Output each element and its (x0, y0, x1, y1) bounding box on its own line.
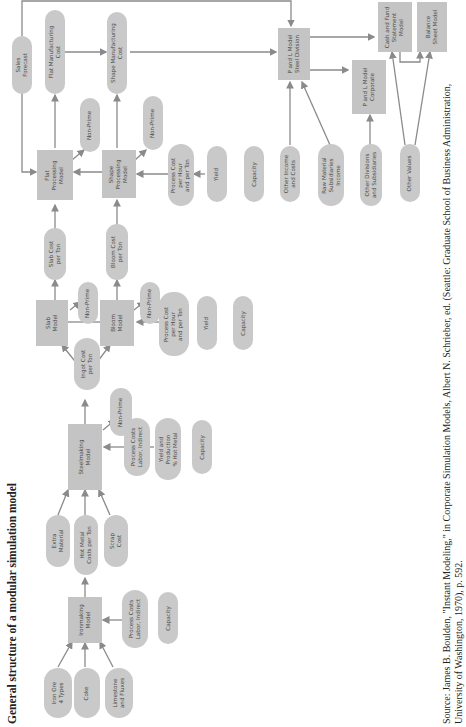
node-flat-mfg-cost: Flat Manufacturing Cost (45, 10, 65, 94)
node-bloom-capacity: Capacity (233, 296, 253, 350)
node-label: Iron Ore 4 Types (51, 682, 65, 705)
node-label: Shape Processing Model (109, 159, 130, 189)
node-other-values: Other Values (400, 144, 420, 202)
figure-title: General structure of a modular simulatio… (6, 483, 18, 724)
node-label: Yield (213, 167, 220, 180)
node-label: Bloom Model (110, 314, 124, 332)
node-label: Process Cost per Hour and per Ton (171, 157, 192, 192)
node-raw-material-subsidiaries: Raw Material Subsidiaries Income (318, 144, 344, 206)
node-sales-forecast: Sales Forecast (12, 36, 32, 94)
node-bloom-cost: Bloom Cost per Ton (106, 224, 128, 280)
node-label: Steelmaking Model (78, 440, 92, 475)
node-ironmaking-model: Ironmaking Model (68, 597, 102, 643)
node-steelmaking-nonprime: Non-Prime (110, 388, 132, 436)
node-pl-corporate: P and L Model Corporate (352, 60, 386, 114)
node-bloom-yield: Yield (197, 296, 217, 350)
node-ironmaking-process-costs: Process Costs Labor, Indirect (122, 590, 148, 648)
source-note-line-2: University of Washington, 1970), p. 592. (453, 560, 464, 724)
node-label: Hot Metal Costs per Ton (79, 526, 93, 564)
node-label: Scrap Cost (109, 533, 123, 549)
node-slab-nonprime: Non-Prime (78, 282, 98, 324)
node-label: Process Cost per Hour and per Ton (164, 306, 185, 341)
node-label: Non-Prime (87, 110, 94, 139)
node-label: Sales Forecast (15, 53, 29, 77)
node-label: Shape Manufacturing Cost (110, 23, 124, 83)
node-other-income: Other Income and Costs (280, 146, 300, 202)
node-shape-process-cost: Process Cost per Hour and per Ton (168, 144, 194, 206)
node-shape-yield: Yield (207, 146, 227, 202)
node-label: Non-Prime (150, 108, 157, 137)
node-label: Bloom Cost per Ton (110, 236, 124, 268)
node-ironmaking-capacity: Capacity (158, 592, 178, 644)
node-pl-steel-division: P and L Model Steel Division (278, 28, 310, 80)
node-label: Slab Model (45, 315, 59, 332)
node-steelmaking-yield: Yield and Production % Hot Metal (155, 418, 181, 480)
node-label: Balance Sheet Model (425, 10, 439, 45)
node-label: Non-Prime (147, 288, 154, 317)
node-label: Other Values (407, 155, 414, 191)
node-label: Other Divisions and Subsidiaries (364, 152, 378, 198)
node-label: Capacity (251, 162, 258, 186)
node-label: Coke (84, 686, 91, 700)
node-label: Raw Material Subsidiaries Income (321, 157, 342, 193)
node-label: Ingot Cost per Ton (80, 350, 94, 379)
node-flat-processing-model: Flat Processing Model (37, 150, 73, 200)
node-flat-nonprime: Non-Prime (80, 98, 100, 152)
source-note-line-1: Source: James B. Boulden, "Instant Model… (441, 84, 452, 724)
node-other-divisions: Other Divisions and Subsidiaries (360, 144, 382, 206)
node-coke: Coke (74, 668, 100, 718)
node-shape-nonprime: Non-Prime (143, 96, 163, 150)
node-slab-model: Slab Model (36, 300, 68, 346)
node-label: Yield and Production % Hot Metal (158, 432, 179, 466)
node-label: Capacity (165, 606, 172, 630)
node-steelmaking-capacity: Capacity (192, 420, 212, 474)
node-label: Extra Material (51, 530, 65, 553)
node-hot-metal-costs: Hot Metal Costs per Ton (74, 515, 98, 575)
node-label: Capacity (240, 311, 247, 335)
node-label: Yield (203, 316, 210, 329)
node-label: Ironmaking Model (78, 604, 92, 636)
node-slab-cost: Slab Cost per Ton (44, 228, 66, 280)
diagram-canvas: Iron Ore 4 Types Coke Limestone and Flux… (0, 0, 466, 727)
node-label: P and L Model Corporate (362, 67, 376, 106)
node-label: Limestone and Fluxes (112, 678, 126, 708)
node-bloom-process-cost: Process Cost per Hour and per Ton (159, 292, 189, 356)
node-label: Slab Cost per Ton (48, 241, 62, 267)
node-label: Capacity (199, 435, 206, 459)
node-shape-processing-model: Shape Processing Model (102, 150, 136, 198)
node-shape-capacity: Capacity (244, 146, 264, 202)
node-ingot-cost: Ingot Cost per Ton (74, 338, 100, 390)
node-limestone: Limestone and Fluxes (105, 668, 133, 718)
node-label: P and L Model Steel Division (287, 34, 301, 73)
node-label: Process Costs Labor, Indirect (128, 599, 142, 640)
node-label: Other Income and Costs (283, 155, 297, 193)
node-cash-fund-statement: Cash and Fund Statement Model (378, 2, 412, 52)
node-extra-material: Extra Material (46, 515, 70, 567)
node-bloom-model: Bloom Model (100, 300, 134, 346)
node-bloom-nonprime: Non-Prime (140, 282, 160, 324)
node-label: Process Costs Labor, Indirect (130, 427, 144, 468)
node-shape-mfg-cost: Shape Manufacturing Cost (107, 12, 127, 94)
node-label: Cash and Fund Statement Model (385, 6, 406, 47)
node-scrap-cost: Scrap Cost (104, 515, 128, 567)
node-balance-sheet: Balance Sheet Model (417, 2, 447, 52)
node-steelmaking-model: Steelmaking Model (68, 424, 102, 490)
node-label: Non-Prime (118, 397, 125, 426)
node-label: Non-Prime (85, 288, 92, 317)
node-iron-ore: Iron Ore 4 Types (44, 668, 72, 718)
node-label: Flat Processing Model (45, 160, 66, 190)
node-label: Flat Manufacturing Cost (48, 26, 62, 79)
